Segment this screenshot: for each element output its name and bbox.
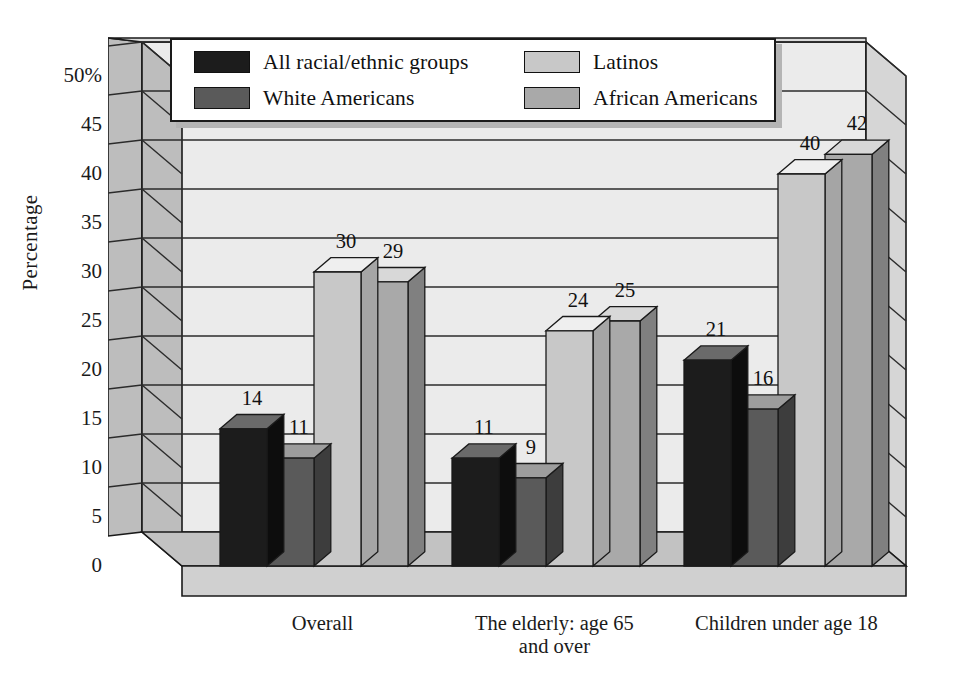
bar-side-1-1	[546, 464, 563, 566]
bar-value-label: 29	[373, 241, 413, 262]
bar-side-1-0	[499, 444, 516, 566]
bar-side-0-1	[314, 444, 331, 566]
y-tick-35: 35	[36, 212, 102, 233]
bar-value-label: 16	[743, 368, 783, 389]
bar-front-0-0	[220, 429, 267, 566]
bar-side-1-3	[640, 307, 657, 566]
bar-value-label: 42	[837, 113, 877, 134]
bar-value-label: 11	[464, 417, 504, 438]
y-tick-0: 0	[36, 555, 102, 576]
y-tick-50: 50%	[36, 65, 102, 86]
chart-root: Percentage 50%454035302520151050 2930111…	[0, 0, 977, 683]
legend-entry-3: African Americans	[524, 86, 774, 111]
chart-legend: All racial/ethnic groups Latinos White A…	[170, 38, 776, 122]
bar-value-label: 40	[790, 133, 830, 154]
legend-label-african-americans: African Americans	[593, 86, 758, 111]
bar-side-0-2	[361, 258, 378, 566]
bar-value-label: 24	[558, 290, 598, 311]
bar-value-label: 21	[696, 319, 736, 340]
bar-side-1-2	[593, 317, 610, 566]
category-label-line: Children under age 18	[636, 612, 936, 635]
category-label-line: and over	[404, 635, 704, 658]
bar-side-2-3	[872, 140, 889, 566]
y-tick-15: 15	[36, 408, 102, 429]
y-tick-40: 40	[36, 163, 102, 184]
legend-entry-2: White Americans	[194, 86, 524, 111]
legend-swatch-white-americans	[194, 87, 250, 109]
legend-label-white-americans: White Americans	[263, 86, 414, 111]
bar-front-1-0	[452, 458, 499, 566]
bar-side-0-3	[408, 268, 425, 566]
legend-label-latinos: Latinos	[593, 50, 658, 75]
bar-value-label: 30	[326, 231, 366, 252]
legend-swatch-african-americans	[524, 87, 580, 109]
bar-side-2-1	[778, 395, 795, 566]
y-axis-tick-labels: 50%454035302520151050	[36, 0, 102, 683]
floor-front	[182, 566, 906, 596]
legend-entry-0: All racial/ethnic groups	[194, 50, 524, 75]
bar-value-label: 25	[605, 280, 645, 301]
legend-swatch-latinos	[524, 51, 580, 73]
y-tick-5: 5	[36, 506, 102, 527]
y-tick-25: 25	[36, 310, 102, 331]
y-tick-10: 10	[36, 457, 102, 478]
legend-label-all-racial-ethnic-groups: All racial/ethnic groups	[263, 50, 468, 75]
y-tick-20: 20	[36, 359, 102, 380]
category-label-2: Children under age 18	[636, 612, 936, 635]
y-tick-30: 30	[36, 261, 102, 282]
bar-value-label: 11	[279, 417, 319, 438]
legend-entry-1: Latinos	[524, 50, 774, 75]
bar-value-label: 14	[232, 388, 272, 409]
y-tick-45: 45	[36, 114, 102, 135]
legend-swatch-all-racial-ethnic-groups	[194, 51, 250, 73]
bar-front-2-0	[684, 360, 731, 566]
bar-value-label: 9	[511, 437, 551, 458]
bar-side-2-2	[825, 160, 842, 566]
